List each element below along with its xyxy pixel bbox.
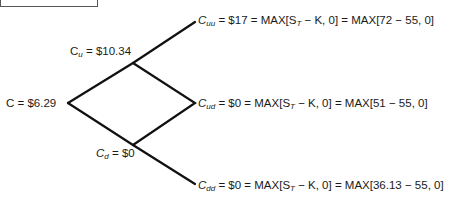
node-uu-label: Cuu = $17 = MAX[ST − K, 0] = MAX[72 − 55…: [198, 13, 434, 31]
node-up-label: Cu = $10.34: [70, 44, 131, 62]
node-dd-label: Cdd = $0 = MAX[ST − K, 0] = MAX[36.13 − …: [198, 178, 444, 196]
node-root-label: C = $6.29: [6, 96, 56, 110]
node-ud-label: Cud = $0 = MAX[ST − K, 0] = MAX[51 − 55,…: [198, 96, 428, 114]
node-down-label: Cd = $0: [96, 146, 135, 164]
branch-up-ud-down: [133, 63, 195, 145]
